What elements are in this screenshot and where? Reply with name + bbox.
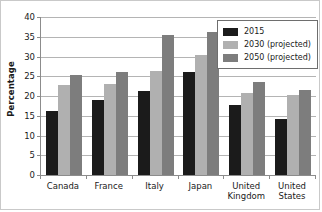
legend: 20152030 (projected)2050 (projected) bbox=[217, 20, 318, 69]
x-axis-label-line: Canada bbox=[40, 181, 86, 191]
x-tick-mark bbox=[315, 175, 316, 179]
legend-swatch bbox=[223, 28, 238, 36]
x-axis-label: Canada bbox=[40, 181, 86, 201]
y-tick-label: 10 bbox=[24, 131, 35, 141]
x-tick-mark bbox=[132, 175, 133, 179]
x-axis-label-line: Japan bbox=[177, 181, 223, 191]
bar bbox=[275, 119, 287, 175]
y-axis-title: Percentage bbox=[3, 1, 19, 176]
x-axis-label-line: United bbox=[223, 181, 269, 191]
bar bbox=[116, 72, 128, 175]
bar bbox=[287, 95, 299, 175]
bar bbox=[229, 105, 241, 175]
bar bbox=[183, 72, 195, 175]
bar bbox=[241, 93, 253, 175]
y-tick-label: 15 bbox=[24, 111, 35, 121]
x-axis-label-line: United bbox=[269, 181, 315, 191]
bar bbox=[46, 111, 58, 175]
x-axis-labels: CanadaFranceItalyJapanUnitedKingdomUnite… bbox=[40, 181, 315, 201]
bar bbox=[58, 85, 70, 175]
legend-label: 2015 bbox=[244, 27, 264, 36]
x-axis-label: France bbox=[86, 181, 132, 201]
x-tick-mark bbox=[178, 175, 179, 179]
y-tick-label: 0 bbox=[30, 170, 35, 180]
bar bbox=[138, 91, 150, 175]
legend-swatch bbox=[223, 41, 238, 49]
bar-group bbox=[133, 17, 179, 175]
bar bbox=[162, 35, 174, 175]
x-axis-label-line: Kingdom bbox=[223, 191, 269, 201]
x-axis-ticks bbox=[40, 175, 315, 180]
x-axis-label-line: France bbox=[86, 181, 132, 191]
x-axis-label: UnitedKingdom bbox=[223, 181, 269, 201]
y-tick-label: 40 bbox=[24, 12, 35, 22]
bar bbox=[70, 75, 82, 175]
y-tick-label: 5 bbox=[30, 150, 35, 160]
bar bbox=[253, 82, 265, 175]
legend-label: 2050 (projected) bbox=[244, 53, 311, 62]
legend-label: 2030 (projected) bbox=[244, 40, 311, 49]
y-tick-label: 20 bbox=[24, 91, 35, 101]
bar bbox=[150, 71, 162, 175]
x-tick-mark bbox=[269, 175, 270, 179]
x-tick-mark bbox=[223, 175, 224, 179]
legend-item: 2050 (projected) bbox=[223, 51, 311, 64]
y-tick-label: 25 bbox=[24, 71, 35, 81]
bar bbox=[299, 90, 311, 175]
x-tick-mark bbox=[86, 175, 87, 179]
bar-group bbox=[41, 17, 87, 175]
x-tick-mark bbox=[40, 175, 41, 179]
y-tick-label: 35 bbox=[24, 32, 35, 42]
y-tick-label: 30 bbox=[24, 52, 35, 62]
legend-item: 2030 (projected) bbox=[223, 38, 311, 51]
x-axis-label-line: States bbox=[269, 191, 315, 201]
chart-container: Percentage 0510152025303540 CanadaFrance… bbox=[0, 0, 320, 210]
legend-item: 2015 bbox=[223, 25, 311, 38]
x-axis-label: Italy bbox=[132, 181, 178, 201]
bar bbox=[104, 84, 116, 175]
x-axis-label: UnitedStates bbox=[269, 181, 315, 201]
x-axis-label-line: Italy bbox=[132, 181, 178, 191]
legend-swatch bbox=[223, 54, 238, 62]
y-axis-title-text: Percentage bbox=[6, 61, 16, 117]
bar bbox=[92, 100, 104, 175]
x-axis-label: Japan bbox=[177, 181, 223, 201]
bar bbox=[195, 55, 207, 175]
bar-group bbox=[87, 17, 133, 175]
